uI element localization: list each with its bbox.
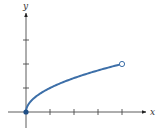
x-axis-label: x <box>150 107 155 117</box>
y-axis-label: y <box>22 1 29 11</box>
sqrt-curve <box>26 64 122 112</box>
function-graph: x y <box>0 0 161 136</box>
open-endpoint-circle <box>119 61 124 66</box>
closed-endpoint-dot <box>23 109 28 114</box>
